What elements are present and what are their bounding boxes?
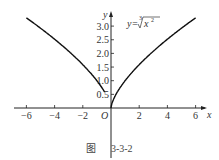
y-tick-label: 0.5 (97, 89, 110, 100)
x-tick-label: −6 (21, 110, 32, 121)
x-tick-label: −4 (49, 110, 60, 121)
svg-text:2: 2 (151, 17, 154, 23)
caption-number: 3-3-2 (111, 143, 133, 154)
x-tick-label: 6 (193, 110, 198, 121)
y-axis-arrow-icon (109, 11, 113, 17)
y-tick-label: 3.0 (97, 21, 110, 32)
origin-label: O (101, 110, 108, 121)
chart: −6−4−2246 0.51.01.52.02.53.0 x y O y= 3 … (0, 0, 219, 160)
svg-text:3: 3 (139, 15, 142, 21)
x-ticks: −6−4−2246 (21, 105, 198, 121)
svg-text:x: x (143, 18, 149, 29)
y-axis-label: y (102, 9, 108, 20)
x-axis-label: x (206, 109, 212, 120)
function-label: y= 3 x 2 (126, 15, 160, 29)
x-tick-label: 4 (165, 110, 170, 121)
y-tick-label: 2.5 (97, 34, 110, 45)
x-tick-label: −2 (77, 110, 88, 121)
x-tick-label: 2 (137, 110, 142, 121)
caption-prefix: 图 (86, 143, 96, 154)
y-tick-label: 2.0 (97, 48, 110, 59)
y-tick-label: 1.0 (97, 75, 110, 86)
figure-caption: 图 3-3-2 (0, 140, 219, 155)
svg-text:y=: y= (126, 18, 138, 29)
axes (14, 11, 207, 158)
y-tick-label: 1.5 (97, 62, 110, 73)
